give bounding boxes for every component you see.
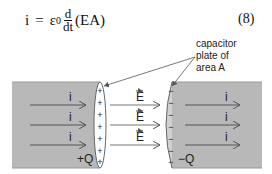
- right-charge-label: −Q: [178, 152, 194, 166]
- minus-sign: −: [168, 122, 173, 132]
- capacitor-plate-annotation: capacitor plate of area A: [196, 38, 237, 73]
- minus-sign: −: [168, 134, 173, 144]
- current-label: i: [69, 130, 72, 144]
- plus-sign: +: [97, 86, 102, 96]
- field-label: E: [136, 130, 144, 144]
- minus-sign: −: [168, 86, 173, 96]
- positive-charges: + + + + + + +: [97, 86, 102, 167]
- negative-charges: − − − − − − −: [168, 86, 173, 167]
- annotation-line: area A: [196, 62, 225, 73]
- current-label: i: [225, 130, 228, 144]
- electric-field-arrows: [110, 105, 160, 145]
- plus-sign: +: [97, 122, 102, 132]
- annotation-line: capacitor: [196, 38, 237, 49]
- plus-sign: +: [97, 146, 102, 156]
- current-label: i: [69, 110, 72, 124]
- minus-sign: −: [168, 157, 173, 167]
- capacitor-diagram: + + + + + + + − − − − − − − i i i +Q E E…: [0, 0, 272, 174]
- plus-sign: +: [97, 110, 102, 120]
- annotation-line: plate of: [196, 50, 229, 61]
- minus-sign: −: [168, 110, 173, 120]
- current-label: i: [225, 90, 228, 104]
- minus-sign: −: [168, 146, 173, 156]
- current-label: i: [69, 90, 72, 104]
- field-label: E: [136, 110, 144, 124]
- plus-sign: +: [97, 134, 102, 144]
- plus-sign: +: [97, 157, 102, 167]
- minus-sign: −: [168, 98, 173, 108]
- plus-sign: +: [97, 98, 102, 108]
- left-charge-label: +Q: [77, 152, 93, 166]
- field-label: E: [136, 90, 144, 104]
- current-label: i: [225, 110, 228, 124]
